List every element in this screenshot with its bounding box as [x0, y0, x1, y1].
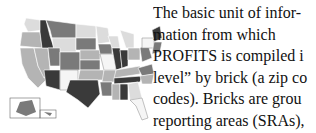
text-line: The basic unit of infor-: [153, 2, 316, 24]
text-line: PROFITS is compiled i: [153, 45, 316, 67]
us-map-figure: [8, 8, 163, 123]
text-line: codes). Bricks are grou: [153, 88, 316, 110]
body-paragraph: The basic unit of infor- mation from whi…: [153, 2, 316, 131]
us-map-icon: [8, 8, 163, 123]
text-line: reporting areas (SRAs),: [153, 110, 316, 132]
text-line: level” by brick (a zip co: [153, 67, 316, 89]
text-line: mation from which: [153, 24, 316, 46]
